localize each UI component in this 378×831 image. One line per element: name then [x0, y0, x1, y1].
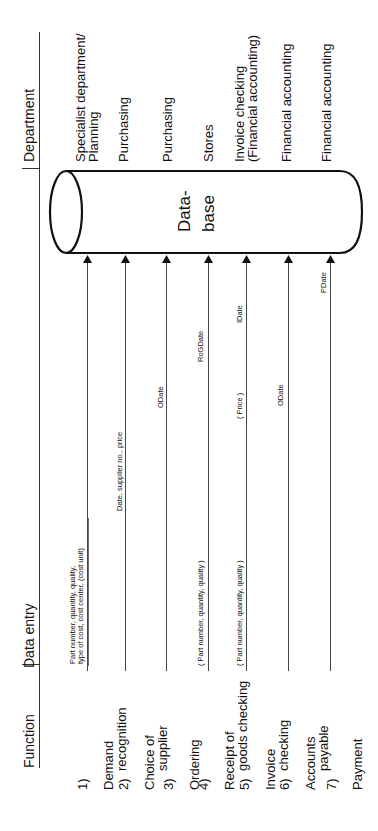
database-label-line1: Data-	[168, 190, 201, 232]
function-3-num: 3)	[162, 739, 175, 790]
data-entry-2: Date, supplier no., price	[116, 432, 124, 511]
arrow-up-icon	[326, 255, 335, 263]
data-entry-3-date: ODate	[157, 386, 165, 408]
function-7-line1: 7) Payment	[325, 739, 364, 790]
department-6: Financial accounting	[280, 43, 293, 162]
data-entry-5-price: ( Price )	[236, 393, 244, 419]
arrow-up-icon	[284, 255, 293, 263]
data-entry-5-date: IDate	[236, 305, 244, 323]
department-5: Invoice checking (Financial accounting)	[233, 35, 259, 162]
function-6-num: 6)	[278, 725, 291, 790]
arrow-up-icon	[162, 255, 171, 263]
department-2: Purchasing	[117, 97, 130, 162]
function-7-text: Payment	[351, 739, 364, 790]
header-function: Function	[22, 714, 36, 768]
arrow-up-icon	[204, 255, 213, 263]
function-2-num: 2)	[117, 725, 130, 790]
database-label: Data- base	[168, 190, 217, 232]
arrow-up-icon	[121, 255, 130, 263]
data-entry-1: Part number, quantity, quality, type of …	[69, 548, 84, 664]
function-6: 6) Accounts payable	[278, 725, 330, 790]
function-5-line1: 5) Invoice	[238, 720, 277, 790]
function-4-num: 4)	[197, 681, 210, 790]
data-entry-1-line2: type of cost, cost center, (cost unit)	[77, 548, 85, 664]
function-4-line1: 4) Receipt of	[197, 681, 236, 790]
data-entry-4: ( Part number, quantity, quality )	[197, 560, 205, 666]
function-7: 7) Payment	[325, 739, 364, 790]
database-label-line2: base	[201, 190, 217, 232]
header-data-entry: Data entry	[22, 603, 36, 668]
data-entry-7-date: PDate	[320, 272, 328, 293]
data-entry-6-date: ODate	[277, 384, 285, 406]
department-3: Purchasing	[161, 97, 174, 162]
department-5-line2: (Financial accounting)	[246, 35, 259, 162]
function-1-num: 1)	[76, 707, 89, 790]
function-1-line1: 1) Demand	[76, 707, 115, 790]
data-entry-4-date: RoGDate	[197, 331, 205, 362]
department-1-line2: Planning	[87, 33, 100, 162]
department-7: Financial accounting	[320, 43, 333, 162]
arrow-up-icon	[242, 255, 251, 263]
arrow-up-icon	[83, 255, 92, 263]
data-entry-5: ( Part number, quantity, quality )	[236, 560, 244, 666]
function-6-line1: 6) Accounts	[278, 725, 317, 790]
header-department: Department	[22, 89, 36, 162]
function-7-num: 7)	[325, 739, 338, 790]
department-4: Stores	[202, 124, 215, 162]
function-5-num: 5)	[238, 720, 251, 790]
function-2-line1: 2) Choice of	[117, 725, 156, 790]
department-1: Specialist department/ Planning	[74, 33, 100, 162]
arrowheads	[83, 255, 335, 263]
